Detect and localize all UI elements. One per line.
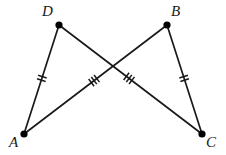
vertex-label-c: C: [206, 135, 216, 150]
vertex-dot-d: [55, 21, 62, 28]
vertex-label-a: A: [9, 135, 18, 150]
geometry-figure: DBAC: [0, 0, 226, 155]
vertex-dot-b: [163, 21, 170, 28]
segment-dc: [59, 25, 202, 134]
vertex-dot-c: [198, 130, 205, 137]
tick-marks-layer: [37, 73, 189, 86]
segment-ab: [24, 25, 167, 134]
vertex-dots-layer: [20, 21, 205, 137]
figure-canvas: [0, 0, 226, 155]
vertex-label-b: B: [171, 4, 180, 19]
segments-layer: [24, 25, 202, 134]
vertex-dot-a: [20, 130, 27, 137]
vertex-label-d: D: [42, 4, 53, 19]
